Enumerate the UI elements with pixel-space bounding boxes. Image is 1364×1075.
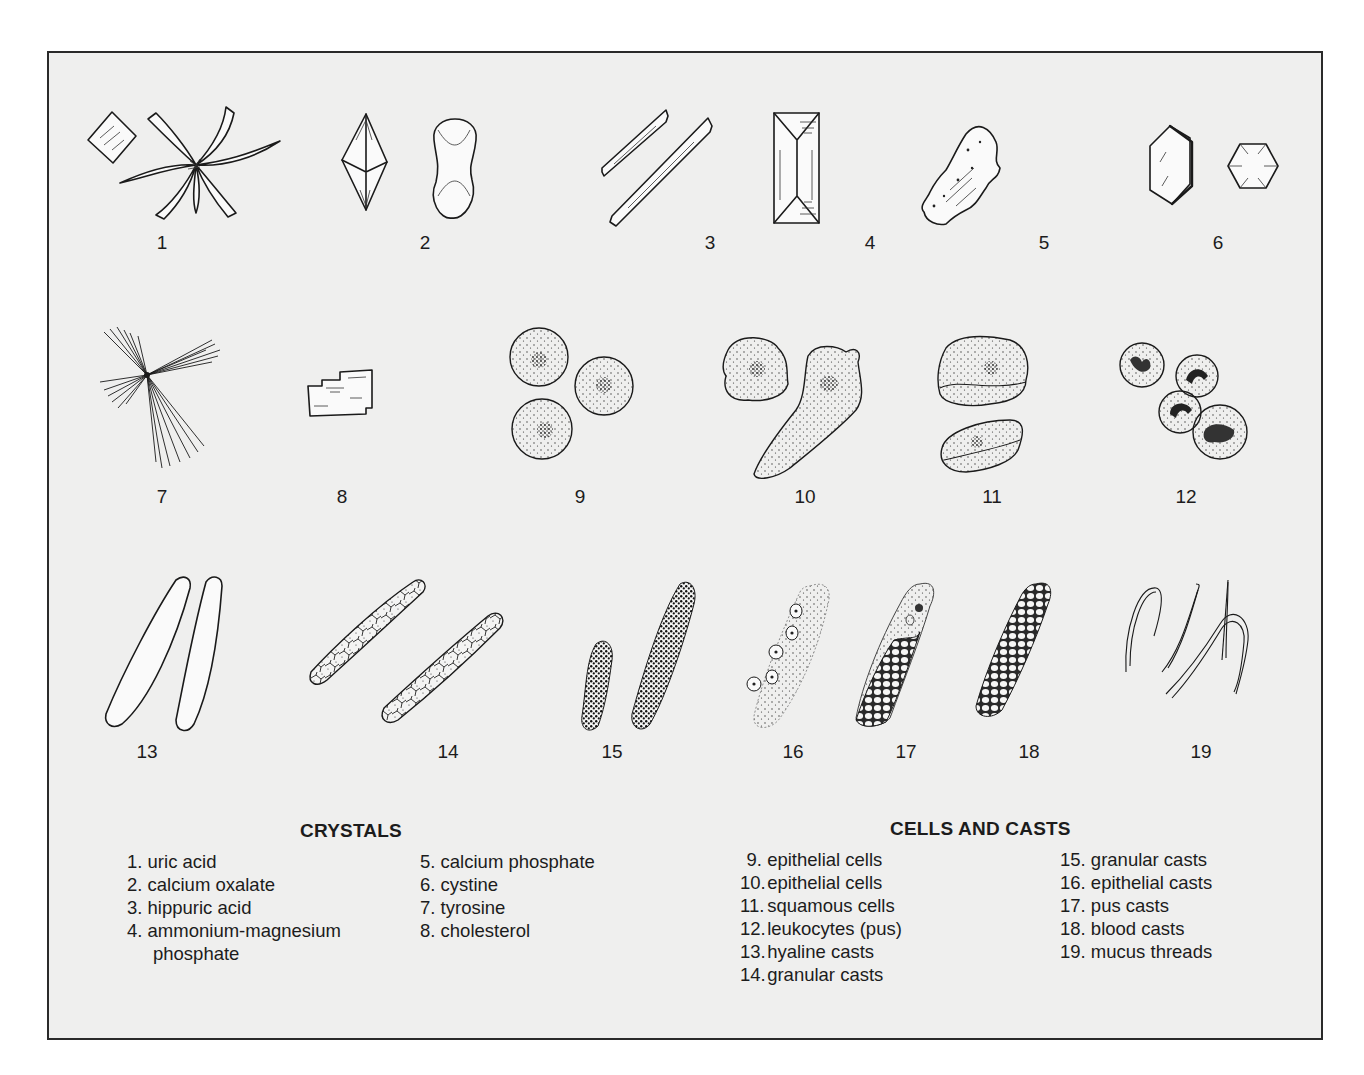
legend-item: 11. squamous cells bbox=[740, 894, 902, 917]
legend-item: 9. epithelial cells bbox=[740, 848, 902, 871]
legend-item: 1. uric acid bbox=[127, 850, 341, 873]
panel-label-7: 7 bbox=[157, 486, 168, 508]
legend-item: 8. cholesterol bbox=[420, 919, 595, 942]
panel-label-2: 2 bbox=[420, 232, 431, 254]
panel-label-17: 17 bbox=[895, 741, 916, 763]
legend-item: 6. cystine bbox=[420, 873, 595, 896]
legend-item: 7. tyrosine bbox=[420, 896, 595, 919]
panel-label-9: 9 bbox=[575, 486, 586, 508]
legend-item: 2. calcium oxalate bbox=[127, 873, 341, 896]
legend-item: 10. epithelial cells bbox=[740, 871, 902, 894]
legend-item: 18. blood casts bbox=[1060, 917, 1212, 940]
panel-label-1: 1 bbox=[157, 232, 168, 254]
legend-item: 14. granular casts bbox=[740, 963, 902, 986]
panel-label-8: 8 bbox=[337, 486, 348, 508]
legend-title-cells-and-casts: CELLS AND CASTS bbox=[890, 818, 1071, 840]
legend-item-continuation: phosphate bbox=[127, 942, 341, 965]
panel-label-6: 6 bbox=[1213, 232, 1224, 254]
panel-label-13: 13 bbox=[136, 741, 157, 763]
legend-item: 16. epithelial casts bbox=[1060, 871, 1212, 894]
legend-cells-col1: 9. epithelial cells 10. epithelial cells… bbox=[740, 848, 902, 986]
panel-label-11: 11 bbox=[982, 486, 1002, 508]
legend-item: 17. pus casts bbox=[1060, 894, 1212, 917]
legend-item: 5. calcium phosphate bbox=[420, 850, 595, 873]
panel-label-10: 10 bbox=[794, 486, 815, 508]
panel-label-3: 3 bbox=[705, 232, 716, 254]
panel-label-4: 4 bbox=[865, 232, 876, 254]
legend-item: 13. hyaline casts bbox=[740, 940, 902, 963]
legend-item: 15. granular casts bbox=[1060, 848, 1212, 871]
panel-label-19: 19 bbox=[1190, 741, 1211, 763]
panel-label-16: 16 bbox=[782, 741, 803, 763]
legend-crystals-col1: 1. uric acid 2. calcium oxalate 3. hippu… bbox=[127, 850, 341, 965]
legend-crystals-col2: 5. calcium phosphate 6. cystine 7. tyros… bbox=[420, 850, 595, 942]
legend-title-crystals: CRYSTALS bbox=[300, 820, 402, 842]
legend-cells-col2: 15. granular casts 16. epithelial casts … bbox=[1060, 848, 1212, 963]
panel-label-14: 14 bbox=[437, 741, 458, 763]
legend-item: 4. ammonium-magnesium bbox=[127, 919, 341, 942]
panel-label-18: 18 bbox=[1018, 741, 1039, 763]
legend-item: 12. leukocytes (pus) bbox=[740, 917, 902, 940]
panel-label-15: 15 bbox=[601, 741, 622, 763]
legend-item: 3. hippuric acid bbox=[127, 896, 341, 919]
legend-item: 19. mucus threads bbox=[1060, 940, 1212, 963]
panel-label-12: 12 bbox=[1175, 486, 1196, 508]
panel-label-5: 5 bbox=[1039, 232, 1050, 254]
